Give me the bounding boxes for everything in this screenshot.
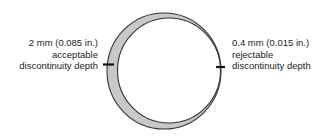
pipe-inner-edge: [118, 18, 221, 123]
pipe-cross-section: [0, 0, 329, 138]
